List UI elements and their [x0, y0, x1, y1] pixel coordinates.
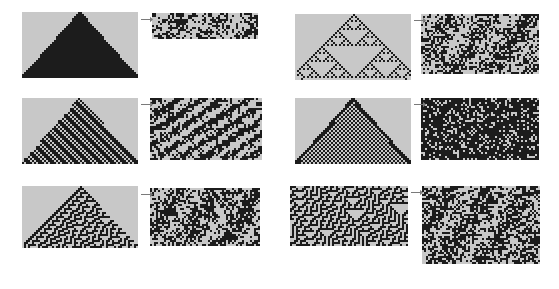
automaton-pair: [0, 0, 559, 289]
figure-canvas-area: [0, 0, 559, 289]
growth-panel-6-gridlines: [290, 186, 408, 246]
steady-state-panel-6-gridlines: [422, 186, 540, 264]
